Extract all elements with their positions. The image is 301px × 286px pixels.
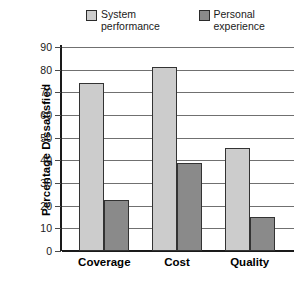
- y-axis-tick: [55, 160, 61, 161]
- y-axis-tick: [55, 138, 61, 139]
- bar-chart: System performance Personal experience P…: [0, 0, 301, 286]
- y-axis-tick: [55, 47, 61, 48]
- legend-swatch-dark-gray-icon: [199, 10, 210, 21]
- y-axis-tick-label: 70: [8, 86, 52, 98]
- y-axis-tick-label: 20: [8, 200, 52, 212]
- x-axis-label-cost: Cost: [164, 256, 190, 268]
- x-axis-label-quality: Quality: [230, 256, 269, 268]
- bar-cost-system-performance: [152, 67, 177, 251]
- legend-label-system-performance: System performance: [101, 8, 185, 32]
- y-axis-tick: [55, 70, 61, 71]
- y-axis-tick-label: 10: [8, 222, 52, 234]
- y-axis-tick: [55, 251, 61, 252]
- y-axis-tick-label: 40: [8, 154, 52, 166]
- legend-swatch-light-gray-icon: [86, 10, 97, 21]
- y-axis-tick: [55, 183, 61, 184]
- bar-coverage-personal-experience: [104, 200, 129, 251]
- y-axis-tick-label: 60: [8, 109, 52, 121]
- legend-entry-personal-experience: Personal experience: [199, 8, 297, 32]
- bar-quality-system-performance: [225, 148, 250, 251]
- plot-area: [62, 47, 294, 251]
- bar-cost-personal-experience: [177, 163, 202, 251]
- y-axis-tick-label: 90: [8, 41, 52, 53]
- bars-layer: [62, 47, 294, 251]
- y-axis-tick: [55, 228, 61, 229]
- bar-quality-personal-experience: [250, 217, 275, 251]
- y-axis-tick: [55, 206, 61, 207]
- y-axis-tick-label: 30: [8, 177, 52, 189]
- y-axis-tick: [55, 115, 61, 116]
- x-axis-label-coverage: Coverage: [78, 256, 130, 268]
- y-axis-tick-label: 0: [8, 245, 52, 257]
- legend-entry-system-performance: System performance: [86, 8, 185, 32]
- y-axis-tick: [55, 92, 61, 93]
- y-axis-tick-label: 50: [8, 132, 52, 144]
- y-axis-tick-label: 80: [8, 64, 52, 76]
- chart-legend: System performance Personal experience: [86, 8, 296, 40]
- legend-label-personal-experience: Personal experience: [214, 8, 297, 32]
- bar-coverage-system-performance: [79, 83, 104, 251]
